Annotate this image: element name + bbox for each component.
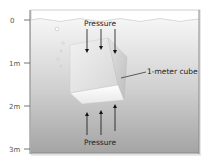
bubble-icon: [60, 65, 62, 67]
bubble-icon: [60, 50, 62, 52]
tick-label-2m: 2m: [9, 103, 20, 111]
tick-label-1m: 1m: [9, 60, 20, 68]
tick-label-3m: 3m: [9, 146, 20, 154]
tick-label-0: 0: [10, 17, 14, 25]
bubble-icon: [62, 42, 64, 44]
bubble-icon: [55, 27, 59, 31]
cube-label: 1-meter cube: [147, 67, 198, 76]
top-pressure-label: Pressure: [84, 19, 116, 28]
pressure-diagram: 0 1m 2m 3m Pressure Pressure 1-meter cub…: [0, 0, 210, 161]
bottom-pressure-label: Pressure: [84, 138, 116, 147]
bubble-icon: [57, 58, 59, 60]
depth-ticks: [24, 20, 30, 149]
